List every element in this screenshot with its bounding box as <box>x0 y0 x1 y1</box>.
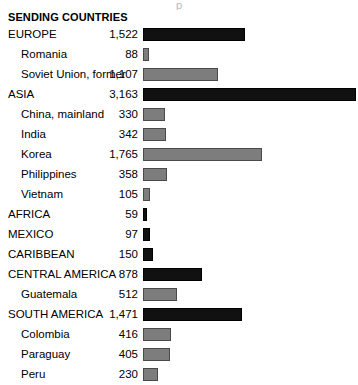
row-value: 512 <box>0 287 138 302</box>
bar <box>143 208 147 221</box>
bar <box>143 368 158 381</box>
bar-track <box>143 308 356 321</box>
bar-track <box>143 368 356 381</box>
chart-row: Romania88 <box>0 45 358 65</box>
bar-track <box>143 288 356 301</box>
chart-row: Korea1,765 <box>0 145 358 165</box>
page-title: SENDING COUNTRIES <box>8 11 128 24</box>
chart-row: AFRICA59 <box>0 205 358 225</box>
row-value: 416 <box>0 327 138 342</box>
bar <box>143 108 165 121</box>
row-value: 330 <box>0 107 138 122</box>
row-value: 878 <box>0 267 138 282</box>
bar-track <box>143 88 356 101</box>
bar-track <box>143 108 356 121</box>
row-value: 97 <box>0 227 138 242</box>
bar <box>143 168 167 181</box>
row-value: 88 <box>0 47 138 62</box>
row-value: 230 <box>0 367 138 382</box>
bar-track <box>143 208 356 221</box>
row-value: 1,522 <box>0 27 138 42</box>
bar-track <box>143 28 356 41</box>
bar-track <box>143 68 356 81</box>
bar <box>143 248 153 261</box>
chart-row: CENTRAL AMERICA878 <box>0 265 358 285</box>
row-value: 59 <box>0 207 138 222</box>
cropped-title-remnant: p <box>0 0 358 10</box>
chart-row: ASIA3,163 <box>0 85 358 105</box>
chart-row: Paraguay405 <box>0 345 358 365</box>
bar-track <box>143 48 356 61</box>
bar <box>143 348 170 361</box>
bar <box>143 88 356 101</box>
row-value: 405 <box>0 347 138 362</box>
bar <box>143 228 150 241</box>
bar-track <box>143 328 356 341</box>
bar <box>143 28 245 41</box>
bar-track <box>143 248 356 261</box>
chart-row: CARIBBEAN150 <box>0 245 358 265</box>
bar-track <box>143 168 356 181</box>
row-value: 1,471 <box>0 307 138 322</box>
row-value: 1,107 <box>0 67 138 82</box>
bar <box>143 288 177 301</box>
bar-track <box>143 188 356 201</box>
row-value: 105 <box>0 187 138 202</box>
bar <box>143 268 202 281</box>
bar <box>143 188 150 201</box>
chart-row: China, mainland330 <box>0 105 358 125</box>
bar <box>143 148 262 161</box>
chart-row: Vietnam105 <box>0 185 358 205</box>
chart-row: Guatemala512 <box>0 285 358 305</box>
chart-row: EUROPE1,522 <box>0 25 358 45</box>
bar-track <box>143 228 356 241</box>
chart-row: Peru230 <box>0 365 358 385</box>
bar <box>143 128 166 141</box>
chart-row: Philippines358 <box>0 165 358 185</box>
chart-row: Colombia416 <box>0 325 358 345</box>
bar-track <box>143 148 356 161</box>
bar-track <box>143 348 356 361</box>
row-value: 358 <box>0 167 138 182</box>
bar-track <box>143 268 356 281</box>
bar-rows-container: EUROPE1,522Romania88Soviet Union, former… <box>0 25 358 385</box>
chart-row: SOUTH AMERICA1,471 <box>0 305 358 325</box>
row-value: 1,765 <box>0 147 138 162</box>
bar-track <box>143 128 356 141</box>
bar <box>143 48 149 61</box>
chart-row: MEXICO97 <box>0 225 358 245</box>
row-value: 3,163 <box>0 87 138 102</box>
bar <box>143 308 242 321</box>
row-value: 150 <box>0 247 138 262</box>
bar <box>143 68 218 81</box>
chart-row: Soviet Union, former1,107 <box>0 65 358 85</box>
chart-row: India342 <box>0 125 358 145</box>
row-value: 342 <box>0 127 138 142</box>
bar <box>143 328 171 341</box>
